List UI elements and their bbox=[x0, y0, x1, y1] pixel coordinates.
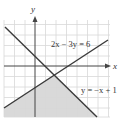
equation-label-2: y = −x + 1 bbox=[81, 85, 117, 95]
y-axis-label: y bbox=[30, 4, 35, 14]
x-axis-label: x bbox=[112, 61, 117, 71]
shaded-region bbox=[4, 75, 97, 118]
equation-label-1: 2x − 3y = 6 bbox=[51, 39, 90, 49]
y-axis-arrow-icon bbox=[33, 16, 38, 22]
inequality-graph: y x 2x − 3y = 6 y = −x + 1 bbox=[0, 0, 122, 124]
x-axis-arrow-icon bbox=[105, 64, 111, 69]
